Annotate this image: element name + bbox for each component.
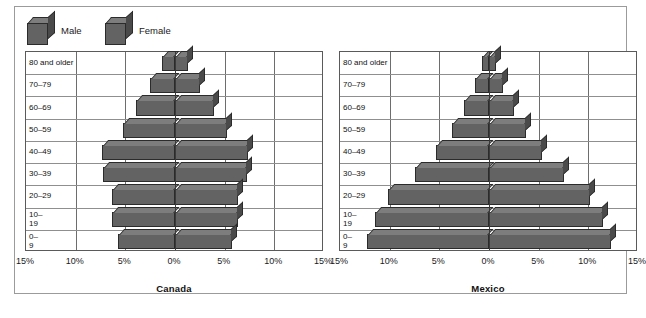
bar-row (340, 119, 636, 141)
age-group-label: 60–69 (29, 103, 51, 112)
bar-female (489, 234, 611, 249)
bar-male (367, 234, 489, 249)
bar-female (175, 167, 247, 182)
x-tick-label: 10% (578, 256, 596, 266)
age-group-label: 0– 9 (29, 232, 38, 250)
x-tick-label: 10% (66, 256, 84, 266)
bar-male (112, 189, 175, 204)
bar-female (489, 212, 603, 227)
bar-male (464, 100, 489, 115)
age-group-label: 40–49 (343, 147, 365, 156)
bar-female (175, 212, 238, 227)
x-axis-ticks-mexico: 15%10%5%0%5%10%15% (339, 254, 637, 270)
x-tick-label: 5% (118, 256, 131, 266)
panel-title-mexico: Mexico (339, 283, 637, 294)
bar-female (175, 123, 227, 138)
age-group-label: 20–29 (343, 191, 365, 200)
bar-female (489, 78, 503, 93)
figure-frame: Male Female 80 and older70–7960–6950–594… (14, 6, 627, 294)
age-group-label: 10– 19 (343, 210, 356, 228)
x-tick-label: 5% (217, 256, 230, 266)
bar-female (175, 56, 188, 71)
bar-male (388, 189, 489, 204)
bar-female (489, 123, 526, 138)
age-group-label: 80 and older (343, 58, 387, 67)
panel-mexico: 80 and older70–7960–6950–5940–4930–3920–… (339, 51, 637, 270)
age-group-label: 40–49 (29, 147, 51, 156)
bar-male (436, 145, 489, 160)
bar-female (489, 100, 514, 115)
panel-canada: 80 and older70–7960–6950–5940–4930–3920–… (25, 51, 323, 270)
bar-female (175, 189, 238, 204)
age-group-label: 30–39 (343, 169, 365, 178)
x-tick-label: 5% (531, 256, 544, 266)
bar-row (26, 141, 322, 163)
bar-female (489, 145, 542, 160)
bar-female (489, 167, 564, 182)
bar-row (340, 185, 636, 207)
bar-male (136, 100, 175, 115)
bar-female (175, 78, 200, 93)
cube-icon (27, 17, 55, 45)
age-group-label: 50–59 (343, 125, 365, 134)
age-group-label: 0– 9 (343, 232, 352, 250)
bar-row (26, 119, 322, 141)
x-tick-label: 15% (16, 256, 34, 266)
x-tick-label: 0% (481, 256, 494, 266)
bar-male (482, 56, 489, 71)
bar-row (26, 230, 322, 252)
cube-icon (105, 17, 133, 45)
age-group-label: 80 and older (29, 58, 73, 67)
x-tick-label: 5% (432, 256, 445, 266)
bar-male (150, 78, 175, 93)
bar-male (102, 145, 175, 160)
bar-row (26, 185, 322, 207)
bar-male (103, 167, 175, 182)
bar-female (175, 234, 232, 249)
plot-area-canada: 80 and older70–7960–6950–5940–4930–3920–… (25, 51, 323, 251)
x-tick-label: 0% (167, 256, 180, 266)
x-tick-label: 10% (380, 256, 398, 266)
bar-male (475, 78, 489, 93)
bar-row (26, 208, 322, 230)
bar-male (112, 212, 175, 227)
x-tick-label: 15% (628, 256, 646, 266)
bar-male (162, 56, 175, 71)
bar-row (26, 163, 322, 185)
bar-row (26, 74, 322, 96)
bar-male (452, 123, 489, 138)
bar-row (340, 141, 636, 163)
bar-female (489, 189, 590, 204)
legend-label-female: Female (139, 25, 171, 36)
age-group-label: 70–79 (343, 80, 365, 89)
bar-female (489, 56, 496, 71)
bar-male (118, 234, 175, 249)
bar-female (175, 145, 248, 160)
bar-row (26, 96, 322, 118)
age-group-label: 50–59 (29, 125, 51, 134)
x-tick-label: 10% (264, 256, 282, 266)
bar-row (340, 96, 636, 118)
bar-row (340, 74, 636, 96)
center-axis-line (489, 52, 490, 250)
panel-title-canada: Canada (25, 283, 323, 294)
bar-female (175, 100, 214, 115)
bar-male (123, 123, 175, 138)
age-group-label: 70–79 (29, 80, 51, 89)
x-tick-label: 15% (330, 256, 348, 266)
center-axis-line (175, 52, 176, 250)
legend-label-male: Male (61, 25, 82, 36)
plot-area-mexico: 80 and older70–7960–6950–5940–4930–3920–… (339, 51, 637, 251)
x-axis-ticks-canada: 15%10%5%0%5%10%15% (25, 254, 323, 270)
bar-male (375, 212, 489, 227)
age-group-label: 20–29 (29, 191, 51, 200)
bar-male (415, 167, 490, 182)
age-group-label: 30–39 (29, 169, 51, 178)
bar-row (340, 230, 636, 252)
age-group-label: 60–69 (343, 103, 365, 112)
age-group-label: 10– 19 (29, 210, 42, 228)
bar-row (340, 208, 636, 230)
